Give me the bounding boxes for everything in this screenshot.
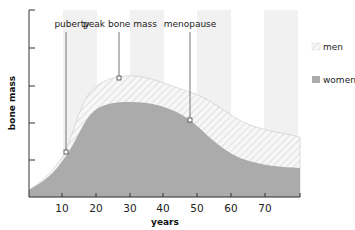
- bone-mass-chart: 10 20 30 40 50 60 70 years bone mass pub…: [0, 0, 355, 230]
- legend-swatch-men: [312, 43, 320, 50]
- peak-bone-mass-marker: [117, 76, 121, 80]
- x-tick-label: 30: [123, 202, 136, 214]
- x-tick-label: 70: [258, 202, 271, 214]
- x-tick-label: 60: [224, 202, 237, 214]
- legend-label-women: women: [323, 75, 355, 85]
- x-tick-labels: 10 20 30 40 50 60 70: [55, 202, 271, 214]
- puberty-marker: [64, 150, 68, 154]
- x-tick-label: 50: [190, 202, 203, 214]
- y-axis: [29, 10, 35, 197]
- annotation-label: menopause: [164, 19, 217, 29]
- legend-swatch-women: [312, 76, 320, 83]
- annotation-label: peak bone mass: [83, 19, 157, 29]
- y-axis-title: bone mass: [7, 76, 17, 130]
- menopause-marker: [188, 118, 192, 122]
- x-tick-label: 40: [156, 202, 169, 214]
- legend-label-men: men: [323, 42, 343, 52]
- legend: men women: [312, 42, 355, 85]
- x-tick-label: 10: [55, 202, 68, 214]
- x-tick-label: 20: [89, 202, 102, 214]
- x-axis-title: years: [151, 217, 179, 227]
